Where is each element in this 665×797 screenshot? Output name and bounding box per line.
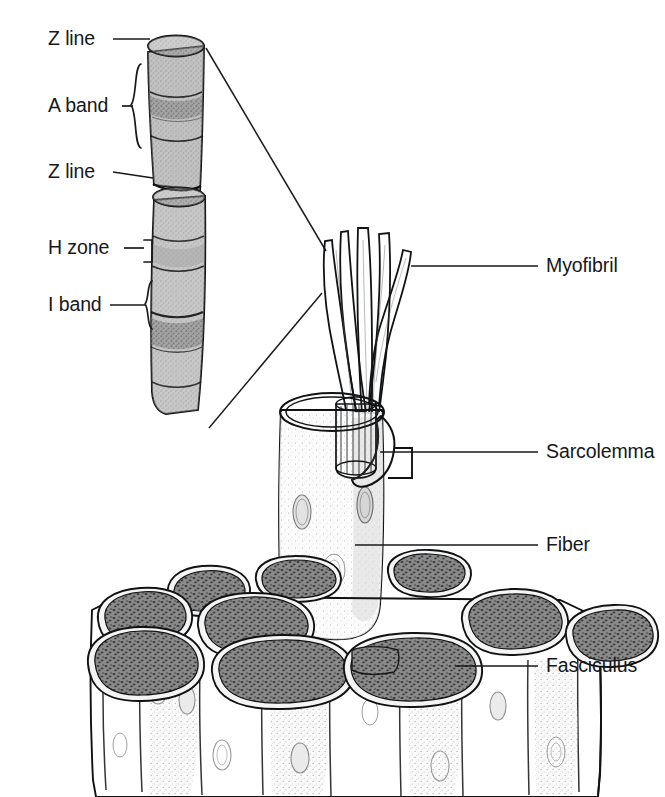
label-fasciculus: Fasciculus xyxy=(546,654,637,676)
perimysium-strip xyxy=(352,647,399,675)
label-sarcolemma: Sarcolemma xyxy=(546,440,655,462)
magnified-myofibril xyxy=(148,36,205,415)
leader-z-line-mid xyxy=(113,172,153,178)
label-h-zone: H zone xyxy=(48,236,109,258)
muscle-structure-figure: Z line A band Z line H zone I band xyxy=(0,0,665,797)
label-z-line-mid: Z line xyxy=(48,160,95,182)
label-z-line-top: Z line xyxy=(48,27,95,49)
sarcomere-segment-upper xyxy=(148,36,204,191)
myofibril-strand-2 xyxy=(340,231,366,412)
label-fiber: Fiber xyxy=(546,533,591,555)
label-a-band: A band xyxy=(48,94,108,116)
left-label-group: Z line A band Z line H zone I band xyxy=(48,27,153,329)
sarcomere-segment-lower xyxy=(151,188,205,415)
magline-lower xyxy=(209,293,322,428)
bracket-h-zone xyxy=(144,240,152,262)
magnification-lines xyxy=(206,48,326,428)
diagram-canvas: Z line A band Z line H zone I band xyxy=(0,0,665,797)
myofibril-strands xyxy=(324,228,411,413)
brace-a-band xyxy=(131,64,141,148)
label-i-band: I band xyxy=(48,293,102,315)
magline-upper xyxy=(206,48,326,251)
label-myofibril: Myofibril xyxy=(546,254,618,276)
